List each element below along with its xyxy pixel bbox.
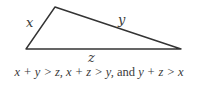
side-label-y: y: [117, 12, 126, 27]
triangle-inequality-caption: x + y > z, x + z > y, and y + z > x: [0, 65, 198, 80]
triangle: [26, 7, 181, 49]
inequality-2: x + z > y,: [66, 65, 114, 79]
inequality-1: x + y > z,: [14, 65, 62, 79]
conjunction: and: [117, 65, 135, 79]
side-label-x: x: [26, 15, 34, 30]
inequality-3: y + z > x: [138, 65, 183, 79]
side-label-z: z: [87, 50, 95, 65]
